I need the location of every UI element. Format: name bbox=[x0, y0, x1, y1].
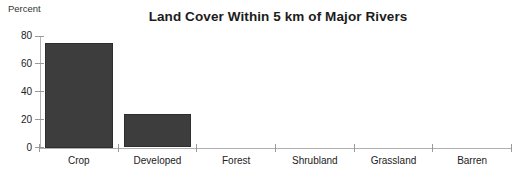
y-tick-mark bbox=[35, 63, 44, 64]
y-tick-label: 40 bbox=[6, 87, 32, 97]
y-tick-label: 0 bbox=[6, 143, 32, 153]
x-tick-label: Crop bbox=[40, 155, 119, 166]
x-tick-label: Grassland bbox=[354, 155, 433, 166]
bar-chart: Land Cover Within 5 km of Major Rivers P… bbox=[0, 0, 516, 179]
x-tick-label: Shrubland bbox=[276, 155, 355, 166]
x-tick-label: Developed bbox=[118, 155, 197, 166]
y-axis-title: Percent bbox=[8, 3, 41, 14]
y-tick-mark bbox=[35, 119, 44, 120]
bar bbox=[45, 43, 113, 148]
x-tick-mark bbox=[275, 144, 276, 152]
bar bbox=[124, 114, 192, 147]
x-tick-mark bbox=[39, 144, 40, 152]
x-tick-mark bbox=[118, 144, 119, 152]
x-tick-mark bbox=[354, 144, 355, 152]
x-tick-mark bbox=[432, 144, 433, 152]
x-tick-mark bbox=[511, 144, 512, 152]
y-tick-mark bbox=[35, 36, 44, 37]
chart-title: Land Cover Within 5 km of Major Rivers bbox=[0, 9, 516, 24]
x-tick-mark bbox=[196, 144, 197, 152]
y-tick-mark bbox=[35, 91, 44, 92]
x-tick-label: Barren bbox=[433, 155, 512, 166]
y-tick-label: 60 bbox=[6, 59, 32, 69]
y-tick-label: 80 bbox=[6, 31, 32, 41]
y-tick-label: 20 bbox=[6, 115, 32, 125]
x-tick-label: Forest bbox=[197, 155, 276, 166]
